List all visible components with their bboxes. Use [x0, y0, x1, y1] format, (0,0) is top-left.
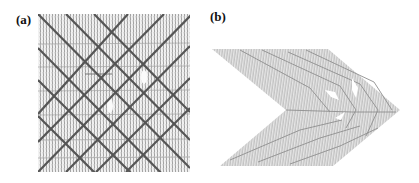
panel-b-image	[212, 49, 400, 166]
figure-canvas	[0, 0, 419, 183]
panel-a-image	[38, 14, 192, 183]
